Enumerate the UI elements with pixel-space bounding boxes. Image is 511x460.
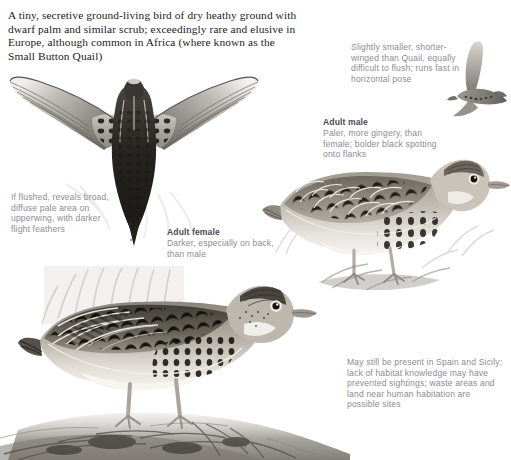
note-flushed-body: If flushed, reveals broad, diffuse pale … (11, 192, 121, 234)
note-adult-male: Adult male Paler, more gingery, than fem… (323, 117, 443, 160)
note-adult-female-heading: Adult female (167, 227, 277, 238)
note-flight: Slightly smaller, shorter-winged than Qu… (351, 42, 469, 84)
note-adult-female: Adult female Darker, especially on back,… (167, 227, 277, 259)
field-guide-plate: A tiny, secretive ground-living bird of … (0, 0, 511, 460)
note-adult-female-body: Darker, especially on back, than male (167, 238, 277, 259)
note-adult-male-body: Paler, more gingery, than female; bolder… (323, 128, 443, 160)
note-flushed: If flushed, reveals broad, diffuse pale … (11, 192, 121, 234)
intro-paragraph: A tiny, secretive ground-living bird of … (8, 9, 298, 63)
note-range-status-body: May still be present in Spain and Sicily… (347, 357, 505, 410)
note-adult-male-heading: Adult male (323, 117, 443, 128)
note-range-status: May still be present in Spain and Sicily… (347, 357, 505, 410)
note-flight-body: Slightly smaller, shorter-winged than Qu… (351, 42, 469, 84)
